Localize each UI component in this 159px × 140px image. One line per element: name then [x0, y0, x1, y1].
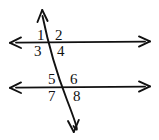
angle-label-2: 2 [55, 28, 63, 43]
angle-label-7: 7 [48, 89, 56, 104]
angle-label-5: 5 [48, 72, 56, 87]
geometry-figure: 1 2 3 4 5 6 7 8 [0, 0, 159, 140]
geometry-canvas [0, 0, 159, 140]
angle-label-3: 3 [34, 44, 42, 59]
angle-label-4: 4 [57, 44, 65, 59]
angle-label-6: 6 [70, 72, 78, 87]
angle-label-1: 1 [37, 28, 45, 43]
angle-label-8: 8 [73, 89, 81, 104]
lower-parallel-line [16, 87, 145, 88]
